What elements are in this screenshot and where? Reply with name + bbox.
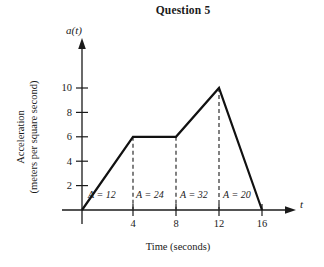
y-tick-label-2: 2 bbox=[50, 180, 72, 191]
x-tick-label-4: 4 bbox=[121, 218, 145, 229]
figure-container: Question 5 Acceleration (meters per squa… bbox=[0, 0, 324, 267]
y-tick-label-8: 8 bbox=[50, 107, 72, 118]
acceleration-time-graph bbox=[0, 0, 324, 267]
x-tick-label-16: 16 bbox=[250, 218, 274, 229]
x-tick-label-12: 12 bbox=[207, 218, 231, 229]
x-axis-symbol: t bbox=[300, 198, 303, 210]
area-label-segment-2: A = 24 bbox=[136, 189, 164, 200]
x-axis-arrow-icon bbox=[285, 206, 296, 214]
y-axis-arrow-icon bbox=[78, 38, 86, 49]
area-label-segment-1: A = 12 bbox=[88, 189, 116, 200]
y-axis-symbol: a(t) bbox=[66, 24, 82, 36]
area-label-segment-4: A = 20 bbox=[223, 189, 251, 200]
x-axis-caption: Time (seconds) bbox=[0, 241, 324, 252]
y-tick-label-10: 10 bbox=[50, 82, 72, 93]
y-tick-label-4: 4 bbox=[50, 156, 72, 167]
x-tick-label-8: 8 bbox=[164, 218, 188, 229]
area-label-segment-3: A = 32 bbox=[180, 189, 208, 200]
y-tick-label-6: 6 bbox=[50, 131, 72, 142]
